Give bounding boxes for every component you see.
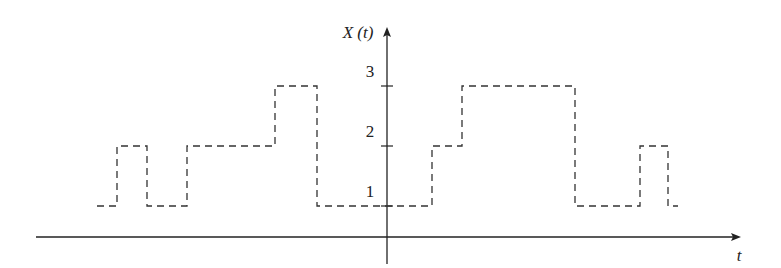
y-axis-label: X (t)	[342, 23, 374, 42]
step-function-chart: 3 2 1 X (t) t	[0, 0, 781, 268]
chart-canvas: 3 2 1 X (t) t	[0, 0, 781, 268]
y-tick-label-3: 3	[366, 62, 375, 81]
y-tick-label-2: 2	[366, 122, 375, 141]
x-axis-label: t	[737, 246, 743, 265]
y-tick-label-1: 1	[366, 182, 375, 201]
